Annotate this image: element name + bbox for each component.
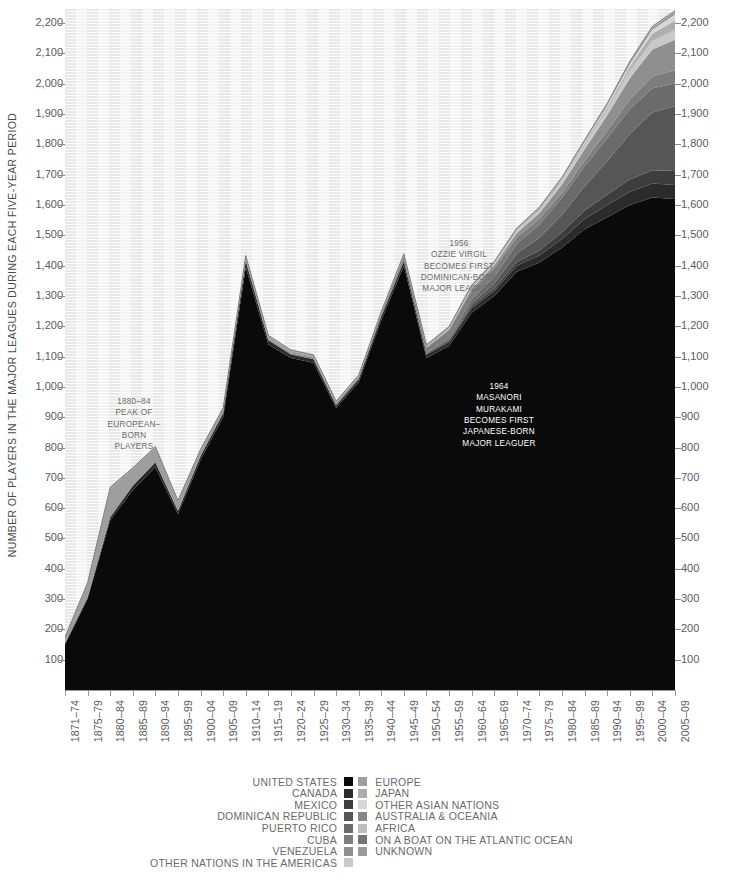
legend-item[interactable]: ON A BOAT ON THE ATLANTIC OCEAN xyxy=(358,834,573,846)
x-tick-label: 1985–89 xyxy=(589,700,601,742)
x-tick-label: 2005–09 xyxy=(679,700,691,742)
x-tick-label: 1920–24 xyxy=(295,700,307,742)
legend-swatch xyxy=(358,824,367,833)
y-tick-label: 200 xyxy=(681,623,699,634)
x-tick-mark xyxy=(88,690,89,696)
y-tick-label: 1,800 xyxy=(681,138,709,149)
legend-item[interactable]: AUSTRALIA & OCEANIA xyxy=(358,811,573,823)
y-tick-mark xyxy=(675,569,681,570)
x-tick-label: 1935–39 xyxy=(363,700,375,742)
x-tick-label: 1910–14 xyxy=(250,700,262,742)
y-tick-mark xyxy=(59,84,65,85)
x-tick-label: 1945–49 xyxy=(408,700,420,742)
y-tick-label: 600 xyxy=(681,502,699,513)
legend-swatch xyxy=(344,800,353,809)
legend-label: VENEZUELA xyxy=(272,846,337,857)
x-tick-label: 1925–29 xyxy=(318,700,330,742)
legend-item[interactable]: MEXICO xyxy=(150,799,353,811)
legend-swatch xyxy=(344,835,353,844)
x-tick-label: 1990–94 xyxy=(611,700,623,742)
x-tick-mark xyxy=(133,690,134,696)
anno-masanori-murakami: 1964 MASANORI MURAKAMI BECOMES FIRST JAP… xyxy=(429,381,569,449)
legend-item[interactable]: UNKNOWN xyxy=(358,846,573,858)
x-tick-mark xyxy=(562,690,563,696)
x-tick-label: 1880–84 xyxy=(114,700,126,742)
legend-item[interactable]: AFRICA xyxy=(358,822,573,834)
legend-column-world: EUROPEJAPANOTHER ASIAN NATIONSAUSTRALIA … xyxy=(358,776,573,869)
x-tick-mark xyxy=(155,690,156,696)
y-axis-title: NUMBER OF PLAYERS IN THE MAJOR LEAGUES D… xyxy=(6,0,18,680)
y-tick-mark xyxy=(675,417,681,418)
x-tick-mark xyxy=(178,690,179,696)
x-tick-mark xyxy=(449,690,450,696)
legend-label: OTHER NATIONS IN THE AMERICAS xyxy=(150,858,337,869)
x-tick-label: 1885–89 xyxy=(137,700,149,742)
x-tick-label: 2000–04 xyxy=(656,700,668,742)
legend-item[interactable]: JAPAN xyxy=(358,788,573,800)
y-tick-mark xyxy=(675,629,681,630)
y-tick-mark xyxy=(59,266,65,267)
y-tick-label: 1,700 xyxy=(681,169,709,180)
x-tick-label: 1980–84 xyxy=(566,700,578,742)
legend-item[interactable]: UNITED STATES xyxy=(150,776,353,788)
x-tick-label: 1930–34 xyxy=(340,700,352,742)
x-tick-mark xyxy=(246,690,247,696)
stacked-area-series xyxy=(65,8,675,690)
y-tick-mark xyxy=(59,387,65,388)
y-tick-mark xyxy=(59,235,65,236)
y-tick-label: 400 xyxy=(681,563,699,574)
y-tick-mark xyxy=(675,387,681,388)
y-tick-label: 2,200 xyxy=(681,17,709,28)
legend-swatch xyxy=(344,777,353,786)
y-tick-label: 1,200 xyxy=(681,320,709,331)
y-tick-label: 1,100 xyxy=(681,351,709,362)
y-tick-mark xyxy=(675,175,681,176)
x-tick-mark xyxy=(585,690,586,696)
y-tick-mark xyxy=(675,114,681,115)
legend-label: EUROPE xyxy=(375,777,421,788)
y-tick-mark xyxy=(675,599,681,600)
anno-european-peak: 1880–84 PEAK OF EUROPEAN– BORN PLAYERS xyxy=(64,396,204,453)
legend-item[interactable]: EUROPE xyxy=(358,776,573,788)
legend-item[interactable]: PUERTO RICO xyxy=(150,822,353,834)
legend-item[interactable]: DOMINICAN REPUBLIC xyxy=(150,811,353,823)
x-tick-mark xyxy=(381,690,382,696)
y-tick-mark xyxy=(59,478,65,479)
x-tick-label: 1900–04 xyxy=(205,700,217,742)
y-tick-mark xyxy=(675,235,681,236)
y-tick-mark xyxy=(675,660,681,661)
legend-label: CUBA xyxy=(307,835,337,846)
y-tick-mark xyxy=(675,23,681,24)
x-tick-mark xyxy=(472,690,473,696)
legend-label: JAPAN xyxy=(375,788,409,799)
x-tick-mark xyxy=(359,690,360,696)
x-tick-label: 1905–09 xyxy=(227,700,239,742)
y-tick-label: 1,300 xyxy=(681,290,709,301)
x-axis-line xyxy=(65,690,675,691)
legend-item[interactable]: CUBA xyxy=(150,834,353,846)
legend-swatch xyxy=(358,847,367,856)
y-tick-label: 500 xyxy=(681,532,699,543)
legend-item[interactable]: OTHER NATIONS IN THE AMERICAS xyxy=(150,857,353,869)
y-tick-mark xyxy=(59,205,65,206)
x-tick-mark xyxy=(65,690,66,696)
legend-item[interactable]: VENEZUELA xyxy=(150,846,353,858)
legend-item[interactable]: OTHER ASIAN NATIONS xyxy=(358,799,573,811)
legend-item[interactable]: CANADA xyxy=(150,788,353,800)
legend-column-americas: UNITED STATESCANADAMEXICODOMINICAN REPUB… xyxy=(150,776,353,869)
y-tick-mark xyxy=(59,599,65,600)
legend-swatch xyxy=(344,824,353,833)
anno-ozzie-virgil: 1956 OZZIE VIRGIL BECOMES FIRST DOMINICA… xyxy=(389,238,529,295)
legend-swatch xyxy=(344,812,353,821)
x-tick-label: 1890–94 xyxy=(159,700,171,742)
legend-label: UNKNOWN xyxy=(375,846,432,857)
y-tick-mark xyxy=(675,296,681,297)
y-tick-mark xyxy=(675,326,681,327)
x-tick-mark xyxy=(607,690,608,696)
x-tick-mark xyxy=(404,690,405,696)
y-tick-label: 900 xyxy=(681,411,699,422)
x-tick-label: 1975–79 xyxy=(543,700,555,742)
y-tick-label: 700 xyxy=(681,472,699,483)
y-tick-mark xyxy=(59,508,65,509)
x-tick-label: 1970–74 xyxy=(521,700,533,742)
